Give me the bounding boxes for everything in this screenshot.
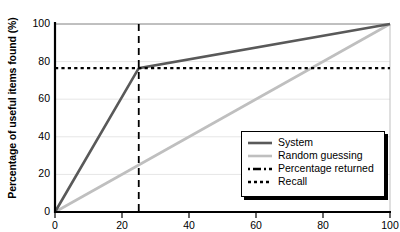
y-tick-label: 0	[22, 206, 50, 217]
chart-container: Percentage of useful items found (%)	[0, 0, 400, 232]
x-tick-label: 60	[236, 219, 276, 231]
y-tick-label: 100	[22, 18, 50, 29]
chart-legend: System Random guessing Percentage return…	[241, 131, 385, 197]
y-tick-label: 60	[22, 93, 50, 104]
x-tick-label: 80	[303, 219, 343, 231]
x-tick-label: 0	[35, 219, 75, 231]
legend-item-percentage-returned: Percentage returned	[247, 162, 378, 175]
legend-swatch-solid-dark-icon	[247, 137, 273, 149]
legend-swatch-dotted-icon	[247, 176, 273, 188]
legend-label: Random guessing	[278, 149, 363, 162]
y-tick-label: 40	[22, 131, 50, 142]
legend-label: Recall	[278, 175, 307, 188]
legend-swatch-solid-light-icon	[247, 150, 273, 162]
y-axis-tick-labels: 100 80 60 40 20 0	[22, 0, 50, 232]
legend-swatch-dash-dot-icon	[247, 163, 273, 175]
y-tick-label: 80	[22, 56, 50, 67]
x-tick-label: 100	[370, 219, 400, 231]
y-tick-label: 20	[22, 168, 50, 179]
legend-label: System	[278, 136, 313, 149]
plot-area	[0, 0, 400, 232]
legend-label: Percentage returned	[278, 162, 374, 175]
x-tick-label: 20	[102, 219, 142, 231]
legend-item-system: System	[247, 136, 378, 149]
legend-item-random-guessing: Random guessing	[247, 149, 378, 162]
x-tick-label: 40	[169, 219, 209, 231]
legend-item-recall: Recall	[247, 175, 378, 188]
